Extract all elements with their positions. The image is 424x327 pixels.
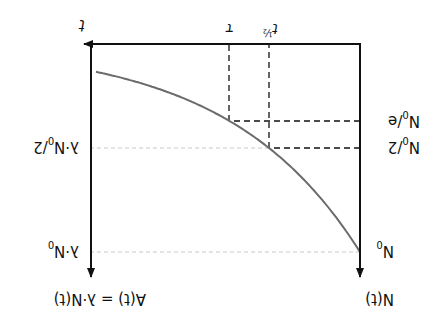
- n0-label: N0: [376, 239, 394, 260]
- lambda-n0-half-label: λ·N0/2: [33, 135, 79, 156]
- tau-label: τ: [225, 21, 234, 37]
- n-axis-label: N(t): [365, 290, 394, 308]
- decay-diagram: N(t) A(t) = λ·N(t) t N0 N0/2 N0/e λ·N0 λ…: [0, 0, 424, 327]
- a-axis-label: A(t) = λ·N(t): [54, 290, 146, 308]
- t-half-label: t½: [263, 21, 279, 38]
- n0-half-label: N0/2: [388, 135, 420, 156]
- lambda-n0-label: λ·N0: [48, 239, 79, 260]
- t-axis-label: t: [78, 16, 85, 34]
- decay-curve: [96, 72, 360, 252]
- diagram-canvas: N(t) A(t) = λ·N(t) t N0 N0/2 N0/e λ·N0 λ…: [0, 0, 424, 327]
- n0-e-label: N0/e: [388, 109, 420, 130]
